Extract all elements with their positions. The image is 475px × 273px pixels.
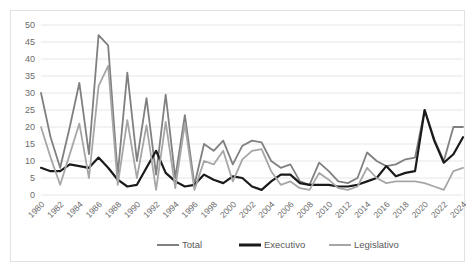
x-axis-tick-label: 1992 <box>141 199 162 220</box>
x-axis-tick-label: 2004 <box>256 199 277 220</box>
x-axis-tick-label: 1996 <box>179 199 200 220</box>
x-axis-tick-label: 1988 <box>103 199 124 220</box>
chart-legend: TotalExecutivoLegislativo <box>157 239 399 250</box>
y-axis-tick-labels: 05101520253035404550 <box>25 20 35 200</box>
y-axis-tick-label: 40 <box>25 54 35 64</box>
y-axis-tick-label: 5 <box>30 173 35 183</box>
x-axis-tick-label: 1994 <box>160 199 181 220</box>
x-axis-tick-label: 2016 <box>371 199 392 220</box>
x-axis-tick-label: 2024 <box>448 199 466 220</box>
x-axis-tick-label: 2002 <box>237 199 258 220</box>
x-axis-tick-label: 2008 <box>295 199 316 220</box>
y-axis-tick-label: 20 <box>25 122 35 132</box>
x-axis-tick-label: 1990 <box>122 199 143 220</box>
x-axis-tick-label: 2018 <box>390 199 411 220</box>
legend-label-legislativo[interactable]: Legislativo <box>354 239 399 250</box>
y-axis-tick-label: 30 <box>25 88 35 98</box>
legend-label-total[interactable]: Total <box>182 239 202 250</box>
x-axis-tick-label: 2014 <box>352 199 373 220</box>
x-axis-tick-label: 1998 <box>199 199 220 220</box>
y-axis-tick-label: 0 <box>30 190 35 200</box>
x-axis-tick-label: 2000 <box>218 199 239 220</box>
x-axis-tick-label: 2022 <box>429 199 450 220</box>
chart-container: 05101520253035404550 1980198219841986198… <box>10 10 465 262</box>
gridlines <box>41 25 463 195</box>
y-axis-tick-label: 50 <box>25 20 35 30</box>
data-series-group <box>41 35 463 190</box>
x-axis-tick-label: 1980 <box>26 199 47 220</box>
x-axis-tick-label: 2010 <box>314 199 335 220</box>
x-axis-tick-label: 2006 <box>275 199 296 220</box>
x-axis-tick-label: 1984 <box>64 199 85 220</box>
legend-label-executivo[interactable]: Executivo <box>264 239 305 250</box>
y-axis-tick-label: 35 <box>25 71 35 81</box>
x-axis-tick-labels: 1980198219841986198819901992199419961998… <box>26 199 466 220</box>
x-axis-tick-label: 1986 <box>84 199 105 220</box>
series-line-legislativo <box>41 66 463 190</box>
y-axis-tick-label: 25 <box>25 105 35 115</box>
y-axis-tick-label: 45 <box>25 37 35 47</box>
y-axis-tick-label: 10 <box>25 156 35 166</box>
y-axis-tick-label: 15 <box>25 139 35 149</box>
x-axis-tick-label: 1982 <box>45 199 66 220</box>
x-axis-tick-label: 2020 <box>410 199 431 220</box>
x-axis-tick-label: 2012 <box>333 199 354 220</box>
line-chart: 05101520253035404550 1980198219841986198… <box>11 11 466 263</box>
